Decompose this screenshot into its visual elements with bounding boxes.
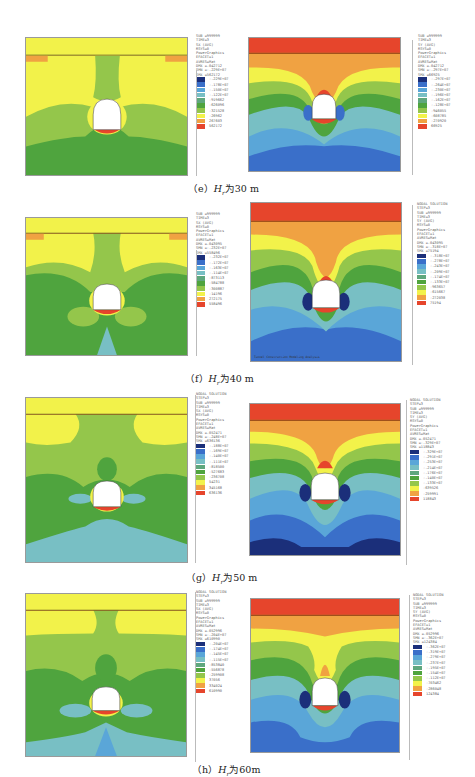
color-swatch <box>410 471 419 476</box>
legend-level: -818500 <box>196 464 228 469</box>
color-swatch <box>418 88 427 93</box>
legend-value: -.297E+07 <box>431 77 450 81</box>
legend-level: -.145E+07 <box>196 652 228 657</box>
color-swatch <box>196 98 205 103</box>
color-swatch <box>196 271 205 276</box>
legend-value: 334024 <box>209 684 222 688</box>
color-swatch <box>196 465 205 470</box>
legend-level: -.229E+07 <box>196 77 228 82</box>
legend-level: -.162E+07 <box>418 98 450 103</box>
legend-level: -873113 <box>196 276 228 281</box>
legend-value: -.279E+07 <box>426 655 445 659</box>
legend-level: -963657 <box>417 285 449 290</box>
fig-g-sx-legend: NODAL SOLUTIONSTEP=3SUB =999999TIME=3SX … <box>196 392 228 495</box>
legend-level: -.122E+07 <box>196 93 228 98</box>
color-swatch <box>196 663 205 668</box>
color-swatch <box>196 480 205 485</box>
legend-value: -.195E+07 <box>426 666 445 670</box>
legend-level: -.253E+07 <box>410 460 442 465</box>
legend-level: -270920 <box>418 118 450 123</box>
color-swatch <box>196 449 205 454</box>
legend-value: -.329E+07 <box>423 450 442 454</box>
color-swatch <box>413 671 422 676</box>
legend-level: -.297E+07 <box>418 77 450 82</box>
legend-value: -608785 <box>431 114 446 118</box>
legend-value: -272038 <box>430 296 445 300</box>
fig-g-sy-legend: NODAL SOLUTIONSTEP=3SUB =999999TIME=3SY … <box>410 398 442 501</box>
legend-value: -.291E+07 <box>423 455 442 459</box>
legend-value: -286048 <box>426 687 441 691</box>
color-swatch <box>196 297 205 302</box>
legend-value: 124384 <box>426 692 439 696</box>
legend-level: -.278E+07 <box>417 259 449 264</box>
legend-level: -.362E+07 <box>413 645 445 650</box>
legend-value: -639526 <box>423 486 438 490</box>
color-swatch <box>418 93 427 98</box>
color-swatch <box>413 686 422 691</box>
legend-level: -.291E+07 <box>410 455 442 460</box>
legend-value: -.154E+07 <box>426 671 445 675</box>
legend-value: -259991 <box>423 492 438 496</box>
legend-level: -626096 <box>196 103 228 108</box>
color-swatch <box>413 692 422 697</box>
color-swatch <box>196 93 205 98</box>
legend-value: -.204E+07 <box>209 642 228 646</box>
color-swatch <box>196 657 205 662</box>
divider <box>412 40 413 175</box>
legend-value: 37056 <box>209 678 220 682</box>
fig-e-caption: （e）Hr为30 m <box>188 181 259 196</box>
legend-value: -.174E+07 <box>209 647 228 651</box>
legend-value: 272175 <box>209 297 222 301</box>
legend-level: -.188E+07 <box>196 444 228 449</box>
color-swatch <box>196 276 205 281</box>
legend-value: -.174E+07 <box>430 275 449 279</box>
color-swatch <box>196 491 205 496</box>
fig-e-sy-legend: SUB =999999TIME=3SY (AVG)RSYS=0PowerGrap… <box>418 34 450 129</box>
legend-level: -.196E+07 <box>418 93 450 98</box>
legend-level: -236708 <box>196 475 228 480</box>
fig-h-sx-contour <box>25 593 187 757</box>
color-swatch <box>418 114 427 119</box>
legend-value: -.319E+07 <box>426 650 445 654</box>
legend-level: -.174E+07 <box>196 647 228 652</box>
fig-f-caption: （f）Hr为40 m <box>185 371 254 386</box>
divider <box>412 205 413 365</box>
color-swatch <box>196 673 205 678</box>
legend-level: -272038 <box>417 295 449 300</box>
legend-value: -.122E+07 <box>209 93 228 97</box>
divider <box>195 395 196 563</box>
color-swatch <box>196 475 205 480</box>
fig-e-sy-contour <box>248 37 401 172</box>
legend-value: -.318E+07 <box>430 254 449 258</box>
legend-value: 610990 <box>209 689 222 693</box>
legend-level: -286048 <box>413 686 445 691</box>
legend-level: -.329E+07 <box>410 450 442 455</box>
color-swatch <box>196 470 205 475</box>
legend-level: -.279E+07 <box>413 655 445 660</box>
fig-f-sy-contour: Tunnel Construction Modeling Analysis <box>250 202 402 362</box>
fig-f-sy-legend: NODAL SOLUTIONSTEP=3SUB =999999TIME=3SY … <box>417 202 449 305</box>
color-swatch <box>196 485 205 490</box>
fig-h-sy-legend: NODAL SOLUTIONSTEP=3SUB =999999TIME=3SY … <box>413 593 445 696</box>
legend-level: -.111E+07 <box>196 459 228 464</box>
color-swatch <box>418 82 427 87</box>
color-swatch <box>417 285 426 290</box>
legend-level: -.174E+07 <box>417 274 449 279</box>
legend-level: -321528 <box>196 108 228 113</box>
legend-level: 562172 <box>196 124 228 129</box>
color-swatch <box>196 108 205 113</box>
color-swatch <box>410 497 419 502</box>
color-swatch <box>413 655 422 660</box>
legend-value: -.128E+07 <box>431 103 450 107</box>
color-swatch <box>410 476 419 481</box>
legend-level: -259991 <box>410 491 442 496</box>
legend-level: 124384 <box>413 691 445 696</box>
legend-level: 75194 <box>417 300 449 305</box>
legend-value: 66925 <box>431 124 442 128</box>
legend-level: -608785 <box>418 113 450 118</box>
legend-level: -.237E+07 <box>413 660 445 665</box>
legend-level: -556878 <box>196 668 228 673</box>
legend-value: -703462 <box>426 681 441 685</box>
legend-value: -.133E+07 <box>423 481 442 485</box>
legend-level: -946055 <box>418 108 450 113</box>
